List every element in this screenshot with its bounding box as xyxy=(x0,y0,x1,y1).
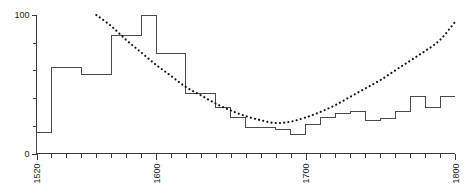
y-axis-ticks xyxy=(32,16,37,155)
x-tick-label-1700: 1700 xyxy=(301,164,311,184)
y-axis-tick-labels: 0100 xyxy=(14,10,29,159)
trend-curve-series xyxy=(96,15,455,123)
x-axis-ticks xyxy=(38,154,456,160)
x-tick-label-1800: 1800 xyxy=(451,164,461,184)
x-axis-tick-labels: 1520160017001800 xyxy=(32,164,461,184)
x-tick-label-1520: 1520 xyxy=(32,164,42,184)
chart-container: 1520160017001800 0100 xyxy=(0,0,470,191)
y-tick-label-100: 100 xyxy=(14,10,29,20)
chart-plot-area: 1520160017001800 0100 xyxy=(0,0,470,191)
x-tick-label-1600: 1600 xyxy=(152,164,162,184)
y-tick-label-0: 0 xyxy=(24,149,29,159)
decadal-step-series xyxy=(37,15,456,154)
